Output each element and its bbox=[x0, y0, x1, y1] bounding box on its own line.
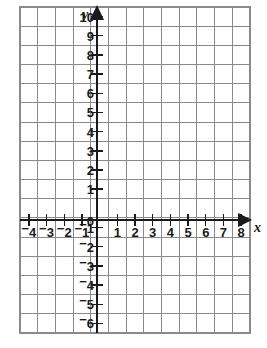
y-tick-label: 2 bbox=[87, 163, 94, 178]
origin-label: 0 bbox=[87, 214, 94, 229]
grid-border bbox=[20, 7, 250, 333]
y-tick-label: −5 bbox=[79, 293, 94, 312]
x-tick-label: 8 bbox=[238, 225, 245, 240]
grid-lines-vertical bbox=[20, 7, 250, 333]
y-tick-label: 3 bbox=[87, 144, 94, 159]
x-tick-label: 6 bbox=[202, 225, 209, 240]
y-tick-label: −4 bbox=[79, 274, 95, 293]
y-tick-label: 9 bbox=[87, 29, 94, 44]
y-tick-label: 4 bbox=[87, 125, 95, 140]
grid-lines-horizontal bbox=[20, 7, 250, 333]
y-tick-label: 6 bbox=[87, 86, 94, 101]
y-tick-label: −6 bbox=[79, 312, 94, 331]
coordinate-grid-figure: −4−3−2−112345678 10987654321−1−2−3−4−5−6… bbox=[0, 0, 267, 348]
x-tick-label: 3 bbox=[149, 225, 156, 240]
y-axis-label: y bbox=[80, 7, 89, 22]
y-axis-tick-labels: 10987654321−1−2−3−4−5−6 bbox=[79, 10, 95, 332]
y-tick-label: 8 bbox=[87, 48, 94, 63]
y-tick-label: 1 bbox=[87, 182, 94, 197]
x-tick-label: 7 bbox=[220, 225, 227, 240]
x-tick-label: 2 bbox=[131, 225, 138, 240]
coordinate-plane-svg: −4−3−2−112345678 10987654321−1−2−3−4−5−6… bbox=[0, 0, 267, 348]
y-tick-label: 5 bbox=[87, 105, 94, 120]
x-tick-label: 5 bbox=[184, 225, 191, 240]
y-tick-label: 7 bbox=[87, 67, 94, 82]
x-axis-label: x bbox=[253, 220, 261, 235]
x-tick-label: 4 bbox=[167, 225, 175, 240]
y-tick-label: −3 bbox=[79, 255, 94, 274]
y-tick-label: −2 bbox=[79, 236, 94, 255]
x-tick-label: 1 bbox=[114, 225, 121, 240]
